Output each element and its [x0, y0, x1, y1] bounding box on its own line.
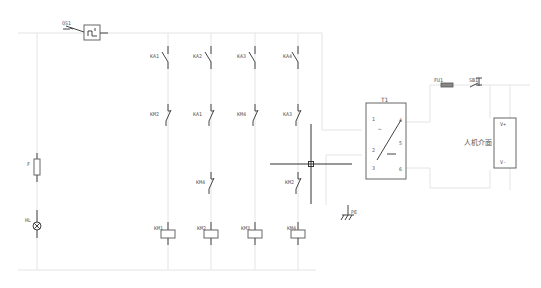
- contact-label: KM2: [285, 179, 294, 185]
- contact-label: KA3: [283, 111, 292, 117]
- coil-km1[interactable]: KM1: [154, 222, 175, 245]
- ground-pe[interactable]: PE: [341, 205, 357, 220]
- no-contact-ka4[interactable]: KA4: [283, 46, 298, 69]
- terminal-1: 1: [372, 116, 375, 122]
- contact-label: KA1: [193, 111, 202, 117]
- column-4: KA4 KA3 KM2 KM4: [283, 46, 305, 245]
- contact-label: KM2: [150, 111, 159, 117]
- schematic-canvas[interactable]: QS1 KA1 KM2 KM1: [0, 0, 541, 288]
- contact-label: KA3: [237, 53, 246, 59]
- ac-symbol-icon: ~: [378, 125, 382, 132]
- contact-label: KM4: [237, 111, 246, 117]
- breaker-label: QS1: [62, 20, 71, 26]
- lamp-hl[interactable]: HL: [25, 210, 41, 238]
- wires: [18, 33, 530, 270]
- vminus-terminal: V-: [500, 159, 506, 165]
- ground-label: PE: [351, 209, 357, 215]
- lamp-label: HL: [25, 217, 31, 223]
- fuse-f[interactable]: F: [27, 153, 40, 182]
- contact-label: KA4: [283, 53, 292, 59]
- vplus-terminal: V+: [500, 121, 506, 127]
- hmi-device[interactable]: 人机介面 V+ V-: [464, 118, 516, 168]
- terminal-6: 6: [399, 166, 402, 172]
- coil-km2[interactable]: KM2: [197, 222, 218, 245]
- fuse-label: FU1: [434, 77, 443, 83]
- breaker-qs1[interactable]: QS1: [62, 20, 108, 40]
- terminal-2: 2: [372, 147, 375, 153]
- fuse-label: F: [27, 161, 30, 167]
- transformer-label: T1: [381, 96, 389, 103]
- no-contact-ka1[interactable]: KA1: [150, 46, 168, 69]
- coil-km3[interactable]: KM3: [241, 222, 262, 245]
- crosshair-cursor: [270, 124, 352, 204]
- contact-label: KA2: [193, 53, 202, 59]
- contact-label: KA1: [150, 53, 159, 59]
- terminal-5: 5: [399, 140, 402, 146]
- transformer-t1[interactable]: T1 1 2 3 4 5 6 ~: [366, 96, 406, 179]
- nc-contact-km2[interactable]: KM2: [285, 172, 301, 194]
- column-3: KA3 KM4 KM3: [237, 46, 262, 245]
- column-2: KA2 KA1 KM4 KM2: [193, 46, 218, 245]
- coil-km4[interactable]: KM4: [287, 222, 305, 245]
- column-1: KA1 KM2 KM1: [150, 46, 175, 245]
- contact-label: KM4: [196, 179, 205, 185]
- terminal-3: 3: [372, 165, 375, 171]
- no-contact-ka3[interactable]: KA3: [237, 46, 255, 69]
- no-contact-ka2[interactable]: KA2: [193, 46, 211, 69]
- hmi-label: 人机介面: [464, 138, 492, 147]
